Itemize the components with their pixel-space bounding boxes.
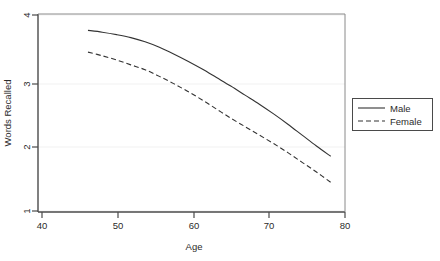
x-axis-ticks	[42, 212, 345, 218]
y-tick-label-4: 4	[21, 12, 32, 17]
plot-area-background	[38, 14, 345, 212]
legend-label-female: Female	[390, 116, 422, 127]
chart-figure: 4 3 2 1 40 50 60 70 80 Words Recalled Ag…	[0, 0, 440, 261]
y-axis-ticks	[32, 15, 38, 211]
line-chart: 4 3 2 1 40 50 60 70 80 Words Recalled Ag…	[0, 0, 440, 261]
y-tick-label-2: 2	[21, 144, 32, 149]
y-axis-tick-labels: 4 3 2 1	[21, 12, 32, 213]
x-tick-label-70: 70	[264, 220, 275, 231]
x-tick-label-40: 40	[37, 220, 48, 231]
x-axis-tick-labels: 40 50 60 70 80	[37, 220, 351, 231]
x-axis-title: Age	[186, 241, 203, 252]
x-tick-label-50: 50	[113, 220, 124, 231]
y-tick-label-3: 3	[21, 81, 32, 86]
legend: Male Female	[353, 99, 433, 131]
legend-label-male: Male	[390, 103, 411, 114]
y-axis-title: Words Recalled	[2, 80, 13, 147]
y-tick-label-1: 1	[21, 208, 32, 213]
x-tick-label-60: 60	[189, 220, 200, 231]
x-tick-label-80: 80	[340, 220, 351, 231]
